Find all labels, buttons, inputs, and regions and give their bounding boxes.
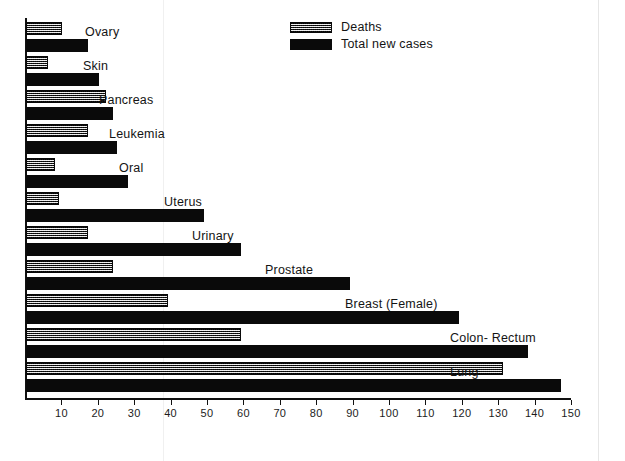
bar-total-new-cases <box>26 311 459 324</box>
x-axis-tick-label: 130 <box>483 407 513 419</box>
category-label: Lung <box>450 365 479 379</box>
x-axis-tick-label: 50 <box>192 407 222 419</box>
bar-deaths <box>26 260 113 273</box>
x-axis-tick <box>462 400 463 405</box>
x-axis-line <box>25 398 571 400</box>
x-axis-tick <box>98 400 99 405</box>
x-axis-tick <box>571 400 572 405</box>
x-axis-tick <box>498 400 499 405</box>
x-axis-tick-label: 120 <box>447 407 477 419</box>
x-axis-tick-label: 30 <box>119 407 149 419</box>
x-axis-tick-label: 140 <box>520 407 550 419</box>
x-axis-tick <box>389 400 390 405</box>
bar-deaths <box>26 158 55 171</box>
x-axis-tick-label: 10 <box>46 407 76 419</box>
scan-artifact-line <box>598 0 599 461</box>
x-axis-tick <box>134 400 135 405</box>
category-label: Skin <box>83 59 108 73</box>
plot-area: 102030405060708090100110120130140150 Ova… <box>25 18 573 400</box>
category-label: Prostate <box>265 263 313 277</box>
bar-deaths <box>26 192 59 205</box>
bar-deaths <box>26 362 503 375</box>
bar-total-new-cases <box>26 379 561 392</box>
bar-total-new-cases <box>26 39 88 52</box>
category-label: Uterus <box>164 195 202 209</box>
x-axis-tick <box>425 400 426 405</box>
x-axis-tick <box>353 400 354 405</box>
bar-deaths <box>26 90 106 103</box>
x-axis-tick-label: 90 <box>338 407 368 419</box>
x-axis-tick-label: 70 <box>265 407 295 419</box>
bar-deaths <box>26 22 62 35</box>
category-label: Ovary <box>85 25 119 39</box>
x-axis-tick <box>280 400 281 405</box>
bar-deaths <box>26 124 88 137</box>
category-label: Oral <box>119 161 143 175</box>
category-label: Breast (Female) <box>345 297 438 311</box>
bar-total-new-cases <box>26 107 113 120</box>
x-axis-tick <box>316 400 317 405</box>
bar-total-new-cases <box>26 277 350 290</box>
bar-total-new-cases <box>26 141 117 154</box>
x-axis-tick-label: 100 <box>374 407 404 419</box>
bar-total-new-cases <box>26 345 528 358</box>
x-axis-tick-label: 110 <box>410 407 440 419</box>
bar-total-new-cases <box>26 243 241 256</box>
category-label: Urinary <box>192 229 234 243</box>
x-axis-tick-label: 60 <box>228 407 258 419</box>
cancer-incidence-bar-chart: Deaths Total new cases 10203040506070809… <box>0 0 625 461</box>
bar-deaths <box>26 56 48 69</box>
x-axis-tick-label: 40 <box>156 407 186 419</box>
bar-deaths <box>26 294 168 307</box>
x-axis-tick <box>61 400 62 405</box>
bar-deaths <box>26 328 241 341</box>
bar-total-new-cases <box>26 175 128 188</box>
bar-total-new-cases <box>26 73 99 86</box>
x-axis-tick <box>243 400 244 405</box>
x-axis-tick-label: 80 <box>301 407 331 419</box>
x-axis-tick <box>535 400 536 405</box>
bar-total-new-cases <box>26 209 204 222</box>
category-label: Leukemia <box>109 127 165 141</box>
bar-deaths <box>26 226 88 239</box>
x-axis-tick-label: 20 <box>83 407 113 419</box>
x-axis-tick-label: 150 <box>556 407 586 419</box>
category-label: Colon- Rectum <box>450 331 536 345</box>
x-axis-tick <box>207 400 208 405</box>
category-label: Pancreas <box>99 93 153 107</box>
x-axis-tick <box>171 400 172 405</box>
